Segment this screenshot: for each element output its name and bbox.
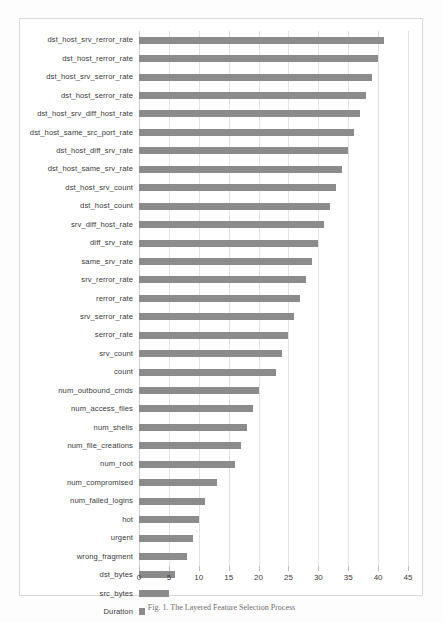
bar-category-label: srv_rerror_rate bbox=[81, 276, 133, 284]
x-tick-label-45: 45 bbox=[404, 573, 413, 582]
bar-category-label: src_bytes bbox=[100, 590, 133, 598]
bar bbox=[139, 147, 348, 154]
bar-category-label: dst_host_rerror_rate bbox=[62, 55, 133, 63]
bar-category-label: rerror_rate bbox=[96, 295, 133, 303]
bar bbox=[139, 535, 193, 542]
bar bbox=[139, 350, 282, 357]
bar bbox=[139, 369, 276, 376]
bar bbox=[139, 184, 336, 191]
bar-category-label: dst_host_same_srv_rate bbox=[48, 165, 133, 173]
x-tick-20 bbox=[259, 566, 260, 571]
x-tick-25 bbox=[288, 566, 289, 571]
bar-category-label: num_access_files bbox=[71, 405, 133, 413]
x-tick-15 bbox=[229, 566, 230, 571]
bar bbox=[139, 461, 235, 468]
bar bbox=[139, 387, 259, 394]
x-tick-5 bbox=[169, 566, 170, 571]
bar-row: num_shells bbox=[139, 418, 408, 436]
bar-row: serror_rate bbox=[139, 326, 408, 344]
x-tick-45 bbox=[408, 566, 409, 571]
bar bbox=[139, 37, 384, 44]
bar-category-label: num_root bbox=[100, 460, 133, 468]
bar bbox=[139, 221, 324, 228]
bar bbox=[139, 92, 366, 99]
bar-category-label: dst_bytes bbox=[100, 571, 133, 579]
bar-row: rerror_rate bbox=[139, 289, 408, 307]
bar-category-label: hot bbox=[122, 516, 133, 524]
bar-category-label: srv_serror_rate bbox=[80, 313, 133, 321]
bar-category-label: num_outbound_cmds bbox=[58, 387, 133, 395]
bar bbox=[139, 295, 300, 302]
x-tick-label-10: 10 bbox=[194, 573, 203, 582]
bar-row: dst_host_diff_srv_rate bbox=[139, 142, 408, 160]
bar-row: num_failed_logins bbox=[139, 492, 408, 510]
bar-category-label: dst_host_srv_diff_host_rate bbox=[37, 110, 133, 118]
bar-category-label: dst_host_srv_serror_rate bbox=[46, 73, 133, 81]
bar-category-label: same_srv_rate bbox=[81, 258, 133, 266]
bar bbox=[139, 332, 288, 339]
bar-row: urgent bbox=[139, 529, 408, 547]
bar-chart: dst_host_srv_rerror_ratedst_host_rerror_… bbox=[20, 19, 424, 597]
bar-category-label: num_failed_logins bbox=[70, 497, 133, 505]
bar-row: num_root bbox=[139, 455, 408, 473]
figure-page: dst_host_srv_rerror_ratedst_host_rerror_… bbox=[0, 0, 443, 622]
x-tick-0 bbox=[139, 566, 140, 571]
bar-rows: dst_host_srv_rerror_ratedst_host_rerror_… bbox=[139, 31, 408, 566]
bar-row: dst_host_same_srv_rate bbox=[139, 160, 408, 178]
bar-category-label: urgent bbox=[111, 534, 133, 542]
bar bbox=[139, 313, 294, 320]
bar-row: dst_host_srv_count bbox=[139, 179, 408, 197]
bar bbox=[139, 442, 241, 449]
x-tick-30 bbox=[318, 566, 319, 571]
bar-row: dst_host_count bbox=[139, 197, 408, 215]
bar-row: dst_host_srv_rerror_rate bbox=[139, 31, 408, 49]
x-tick-label-5: 5 bbox=[167, 573, 171, 582]
bar bbox=[139, 479, 217, 486]
bar-row: same_srv_rate bbox=[139, 252, 408, 270]
bar bbox=[139, 258, 312, 265]
bar-category-label: dst_host_serror_rate bbox=[61, 92, 133, 100]
bar bbox=[139, 203, 330, 210]
bar bbox=[139, 166, 342, 173]
bar-category-label: dst_host_same_src_port_rate bbox=[30, 129, 133, 137]
bar-category-label: srv_diff_host_rate bbox=[71, 221, 133, 229]
bar-category-label: dst_host_srv_count bbox=[65, 184, 133, 192]
bar-row: count bbox=[139, 363, 408, 381]
plot-area: dst_host_srv_rerror_ratedst_host_rerror_… bbox=[139, 31, 408, 566]
bar-row: wrong_fragment bbox=[139, 547, 408, 565]
bar bbox=[139, 553, 187, 560]
bar-row: srv_count bbox=[139, 344, 408, 362]
bar-row: dst_host_srv_serror_rate bbox=[139, 68, 408, 86]
bar bbox=[139, 240, 318, 247]
bar bbox=[139, 110, 360, 117]
bar-row: srv_serror_rate bbox=[139, 308, 408, 326]
bar-row: num_file_creations bbox=[139, 437, 408, 455]
bar-row: dst_host_rerror_rate bbox=[139, 49, 408, 67]
bar bbox=[139, 276, 306, 283]
x-tick-label-40: 40 bbox=[374, 573, 383, 582]
figure-caption: Fig. 1. The Layered Feature Selection Pr… bbox=[0, 603, 443, 612]
x-tick-35 bbox=[348, 566, 349, 571]
bar-row: dst_host_srv_diff_host_rate bbox=[139, 105, 408, 123]
x-tick-label-35: 35 bbox=[344, 573, 353, 582]
bar-row: hot bbox=[139, 510, 408, 528]
bar-category-label: count bbox=[114, 368, 133, 376]
x-tick-label-15: 15 bbox=[224, 573, 233, 582]
x-tick-label-25: 25 bbox=[284, 573, 293, 582]
bar-row: diff_srv_rate bbox=[139, 234, 408, 252]
bar-row: dst_host_serror_rate bbox=[139, 86, 408, 104]
bar-category-label: diff_srv_rate bbox=[90, 239, 133, 247]
x-tick-40 bbox=[378, 566, 379, 571]
bar bbox=[139, 516, 199, 523]
bar bbox=[139, 405, 253, 412]
bar-category-label: dst_host_diff_srv_rate bbox=[56, 147, 133, 155]
bar-row: srv_diff_host_rate bbox=[139, 215, 408, 233]
bar-row: num_access_files bbox=[139, 400, 408, 418]
gridline-45 bbox=[408, 31, 409, 566]
bar-category-label: num_file_creations bbox=[67, 442, 133, 450]
bar-category-label: dst_host_count bbox=[80, 202, 133, 210]
bar bbox=[139, 129, 354, 136]
bar-row: srv_rerror_rate bbox=[139, 271, 408, 289]
x-axis: 051015202530354045 bbox=[139, 566, 408, 592]
bar bbox=[139, 74, 372, 81]
